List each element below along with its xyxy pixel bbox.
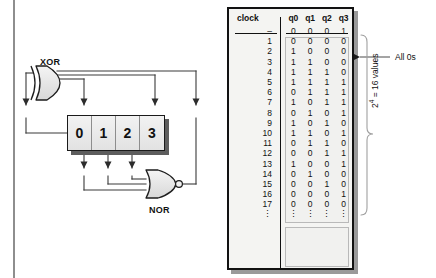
- xor-gate-shape: [31, 66, 60, 100]
- values-count-exponent: 4: [368, 100, 375, 104]
- cell-q1: 0: [302, 26, 319, 36]
- cell-clock: ⋮: [229, 209, 285, 219]
- values-count-rest: = 16 values: [370, 54, 380, 100]
- cell-clock: 15: [229, 179, 285, 189]
- cell-q2: 0: [319, 26, 336, 36]
- column-divider: [280, 17, 282, 269]
- cell-clock: 17: [229, 199, 285, 209]
- cell-clock: 14: [229, 169, 285, 179]
- cell-clock: 10: [229, 128, 285, 138]
- cell-clock: 2: [229, 46, 285, 56]
- cell-clock: 12: [229, 148, 285, 158]
- state-table-panel: clock q0 q1 q2 q3 –000110000210003110041…: [227, 7, 354, 270]
- shift-register: 0 1 2 3: [67, 115, 165, 151]
- circuit-diagram: XOR NOR 0 1 2 3: [0, 0, 218, 278]
- cell-clock: 8: [229, 108, 285, 118]
- cell-clock: 9: [229, 118, 285, 128]
- cell-clock: 13: [229, 158, 285, 168]
- cell-clock: 7: [229, 97, 285, 107]
- nor-gate-label: NOR: [149, 205, 170, 215]
- cell-clock: –: [229, 26, 285, 36]
- nor-gate-shape: [146, 170, 182, 198]
- cell-clock: 3: [229, 57, 285, 67]
- header-rule-left: [235, 33, 277, 34]
- figure-root: XOR NOR 0 1 2 3 clock q0 q1: [0, 0, 436, 278]
- table-row: –0001: [229, 26, 352, 36]
- register-cell-0: 0: [68, 116, 92, 150]
- header-q1: q1: [302, 9, 319, 26]
- annotation-layer: [340, 0, 436, 278]
- cell-clock: 4: [229, 67, 285, 77]
- cell-clock: 5: [229, 77, 285, 87]
- cell-clock: 1: [229, 36, 285, 46]
- register-cell-1: 1: [92, 116, 116, 150]
- values-count-annotation: 24 = 16 values: [368, 54, 380, 108]
- cell-clock: 16: [229, 189, 285, 199]
- all-zeros-annotation: All 0s: [395, 52, 416, 62]
- values-count-base: 2: [370, 103, 380, 108]
- register-cell-2: 2: [116, 116, 140, 150]
- header-q2: q2: [319, 9, 336, 26]
- xor-gate-label: XOR: [40, 57, 60, 67]
- header-q0: q0: [285, 9, 302, 26]
- cell-clock: 6: [229, 87, 285, 97]
- register-cell-3: 3: [140, 116, 164, 150]
- table-header-row: clock q0 q1 q2 q3: [229, 9, 352, 26]
- cell-q0: 0: [285, 26, 302, 36]
- cell-clock: 11: [229, 138, 285, 148]
- header-clock: clock: [229, 9, 285, 26]
- header-rule-right: [286, 33, 348, 34]
